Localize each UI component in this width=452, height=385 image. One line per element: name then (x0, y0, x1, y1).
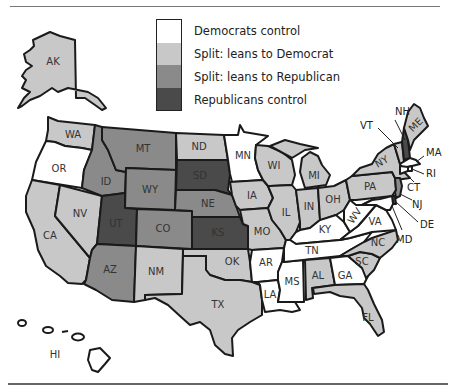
label-ND: ND (191, 141, 206, 152)
label-FL: FL (362, 312, 374, 323)
label-NC: NC (371, 237, 385, 248)
label-IN: IN (304, 201, 314, 212)
state-AK[interactable] (18, 32, 106, 110)
label-AZ: AZ (103, 264, 117, 275)
label-HI: HI (50, 349, 60, 360)
label-TN: TN (304, 245, 319, 256)
label-CT: CT (407, 182, 421, 193)
label-WY: WY (142, 184, 159, 195)
label-MA: MA (426, 147, 442, 158)
label-PA: PA (364, 181, 376, 192)
label-ID: ID (101, 176, 112, 187)
label-NV: NV (73, 208, 87, 219)
label-MT: MT (136, 143, 152, 154)
label-OK: OK (225, 256, 240, 267)
label-SC: SC (355, 256, 368, 267)
leader-VT (378, 128, 398, 148)
label-OR: OR (52, 163, 67, 174)
state-CT[interactable] (400, 166, 408, 174)
label-VT: VT (360, 120, 374, 131)
label-MD: MD (396, 234, 413, 245)
label-AL: AL (312, 270, 325, 281)
leader-MA (416, 156, 424, 162)
label-WI: WI (268, 160, 281, 171)
label-NH: NH (395, 106, 410, 117)
leader-NJ (400, 194, 412, 200)
label-MN: MN (235, 150, 251, 161)
label-SD: SD (193, 170, 207, 181)
leader-RI (412, 169, 424, 174)
label-AR: AR (259, 257, 273, 268)
label-MO: MO (254, 226, 271, 237)
label-VA: VA (368, 216, 381, 227)
label-GA: GA (338, 270, 353, 281)
state-FL[interactable] (313, 284, 384, 336)
label-DE: DE (420, 219, 434, 230)
label-RI: RI (426, 168, 436, 179)
label-OH: OH (325, 194, 340, 205)
label-KY: KY (319, 224, 332, 235)
label-LA: LA (264, 289, 277, 300)
us-map: AK HI WA OR CA NV ID MT WY UT CO AZ NM N… (0, 0, 452, 385)
label-TX: TX (211, 299, 225, 310)
label-IA: IA (247, 190, 257, 201)
label-MI: MI (308, 170, 320, 181)
label-NJ: NJ (412, 199, 422, 210)
state-HI[interactable] (18, 320, 110, 372)
label-WA: WA (65, 129, 81, 140)
label-UT: UT (109, 218, 123, 229)
label-CA: CA (43, 230, 57, 241)
label-NM: NM (148, 266, 164, 277)
label-KS: KS (212, 227, 225, 238)
label-NE: NE (201, 198, 215, 209)
label-MS: MS (285, 276, 300, 287)
label-IL: IL (282, 207, 291, 218)
label-AK: AK (46, 56, 60, 67)
label-CO: CO (156, 223, 171, 234)
